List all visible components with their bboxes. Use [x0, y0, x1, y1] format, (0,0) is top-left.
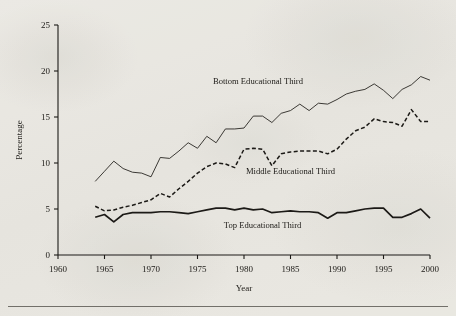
figure-page: 0510152025196019651970197519801985199019…: [0, 0, 456, 316]
series-group: [95, 77, 430, 222]
y-axis-title: Percentage: [14, 120, 24, 159]
y-axis-ticks: 0510152025: [41, 20, 58, 260]
y-tick-label: 10: [41, 158, 51, 168]
x-tick-label: 1960: [49, 264, 68, 274]
x-tick-label: 1990: [328, 264, 347, 274]
y-tick-label: 5: [46, 204, 51, 214]
series-label-top: Top Educational Third: [224, 220, 302, 230]
x-tick-label: 1995: [375, 264, 394, 274]
x-tick-label: 1965: [96, 264, 115, 274]
y-tick-label: 15: [41, 112, 51, 122]
series-label-bottom: Bottom Educational Third: [213, 76, 304, 86]
x-axis-ticks: 196019651970197519801985199019952000: [49, 255, 440, 274]
x-tick-label: 1975: [189, 264, 208, 274]
series-annotations: Bottom Educational ThirdMiddle Education…: [213, 76, 336, 230]
x-tick-label: 1970: [142, 264, 161, 274]
x-axis-title: Year: [236, 283, 253, 293]
y-tick-label: 25: [41, 20, 51, 30]
footer-rule: [8, 306, 448, 307]
y-tick-label: 20: [41, 66, 51, 76]
x-tick-label: 1980: [235, 264, 254, 274]
x-tick-label: 2000: [421, 264, 440, 274]
series-line-middle: [95, 110, 430, 211]
x-tick-label: 1985: [282, 264, 301, 274]
y-tick-label: 0: [46, 250, 51, 260]
line-chart: 0510152025196019651970197519801985199019…: [0, 0, 456, 316]
series-label-middle: Middle Educational Third: [246, 166, 336, 176]
